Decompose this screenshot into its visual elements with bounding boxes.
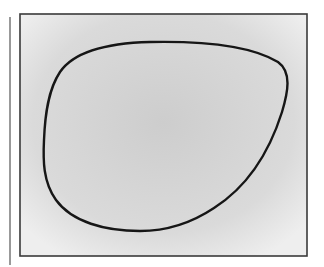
frame-border (20, 14, 307, 256)
lens-diagram (0, 0, 324, 267)
